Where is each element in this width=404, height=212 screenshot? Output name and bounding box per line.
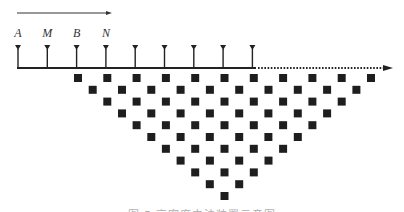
measurement-point: [74, 74, 82, 82]
measurement-point: [250, 145, 258, 153]
measurement-point: [103, 74, 111, 82]
measurement-point: [162, 145, 170, 153]
measurement-point: [162, 98, 170, 106]
measurement-point: [308, 98, 316, 106]
measurement-point: [221, 168, 229, 176]
measurement-point: [206, 157, 214, 165]
measurement-point: [265, 157, 273, 165]
measurement-point: [221, 192, 229, 200]
array-diagram: AMBN: [0, 0, 404, 212]
measurement-point: [221, 98, 229, 106]
measurement-point: [279, 145, 287, 153]
measurement-point: [177, 86, 185, 94]
measurement-point: [235, 86, 243, 94]
measurement-point: [235, 133, 243, 141]
measurement-point: [264, 109, 272, 117]
electrodes: [15, 45, 255, 68]
measurement-point: [103, 98, 111, 106]
measurement-point: [323, 109, 331, 117]
measurement-point: [338, 98, 346, 106]
electrode-label-m: M: [41, 26, 53, 40]
measurement-point: [250, 98, 258, 106]
measurement-point: [338, 74, 346, 82]
measurement-point: [162, 74, 170, 82]
measurement-point: [191, 168, 199, 176]
measurement-point: [206, 180, 214, 188]
measurement-point: [367, 74, 375, 82]
measurement-point: [294, 109, 302, 117]
measurement-point: [294, 86, 302, 94]
measurement-points: [74, 74, 375, 200]
measurement-point: [221, 145, 229, 153]
measurement-point: [133, 121, 141, 129]
figure-caption: 图 5 高密度电法装置示意图: [0, 206, 404, 212]
measurement-point: [147, 109, 155, 117]
electrode-labels: AMBN: [13, 26, 111, 40]
electrode-label-b: B: [73, 26, 81, 40]
measurement-point: [177, 157, 185, 165]
measurement-point: [118, 109, 126, 117]
measurement-point: [206, 133, 214, 141]
measurement-point: [279, 121, 287, 129]
measurement-point: [118, 86, 126, 94]
measurement-point: [308, 74, 316, 82]
measurement-point: [133, 98, 141, 106]
measurement-point: [221, 74, 229, 82]
arrow-head-icon: [106, 11, 112, 15]
measurement-point: [250, 74, 258, 82]
measurement-point: [221, 121, 229, 129]
measurement-point: [177, 109, 185, 117]
measurement-point: [235, 157, 243, 165]
measurement-point: [147, 86, 155, 94]
measurement-point: [191, 121, 199, 129]
measurement-point: [191, 98, 199, 106]
measurement-point: [294, 133, 302, 141]
measurement-point: [235, 109, 243, 117]
measurement-point: [147, 133, 155, 141]
measurement-point: [89, 86, 97, 94]
measurement-point: [265, 86, 273, 94]
measurement-point: [162, 121, 170, 129]
measurement-point: [191, 145, 199, 153]
extension-arrow-head-icon: [383, 65, 393, 71]
measurement-point: [308, 121, 316, 129]
measurement-point: [177, 133, 185, 141]
measurement-point: [279, 98, 287, 106]
measurement-point: [250, 121, 258, 129]
measurement-point: [279, 74, 287, 82]
direction-arrow: [17, 11, 112, 15]
measurement-point: [250, 168, 258, 176]
measurement-point: [191, 74, 199, 82]
measurement-point: [206, 86, 214, 94]
measurement-point: [264, 133, 272, 141]
measurement-point: [235, 180, 243, 188]
electrode-label-n: N: [101, 26, 111, 40]
measurement-point: [133, 74, 141, 82]
measurement-point: [323, 86, 331, 94]
measurement-point: [206, 109, 214, 117]
extension-line: [258, 65, 393, 71]
measurement-point: [352, 86, 360, 94]
electrode-label-a: A: [13, 26, 22, 40]
